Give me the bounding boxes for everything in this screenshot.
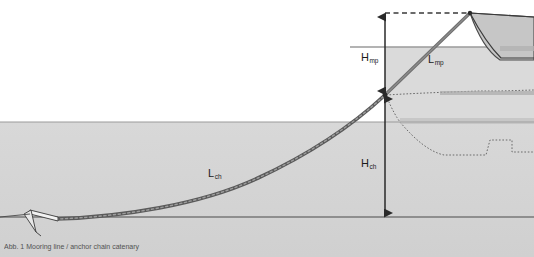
diagram-canvas [0,0,534,257]
label-l-mp-base: L [428,53,434,65]
mooring-catenary-diagram: Hmp Lmp Hch Lch Abb. 1 Mooring line / an… [0,0,534,257]
chain-pendant-connection-node [383,93,388,98]
vessel-waterline-stripe [500,46,534,51]
label-h-mp-base: H [361,51,369,63]
label-l-ch-base: L [208,167,214,179]
label-h-ch-base: H [361,157,369,169]
label-l-mp-sub: mp [435,59,444,66]
label-l-ch-sub: ch [215,173,222,180]
water-region [0,122,534,257]
ghost-deck-stripe [440,91,534,95]
ghost-waterline-stripe [400,118,534,124]
label-l-mp: Lmp [428,53,443,65]
label-h-mp-sub: mp [369,57,378,64]
label-h-mp: Hmp [361,51,378,63]
label-h-ch: Hch [361,157,376,169]
figure-caption: Abb. 1 Mooring line / anchor chain caten… [4,243,139,250]
label-l-ch: Lch [208,167,221,179]
fairlead-node [468,11,472,15]
label-h-ch-sub: ch [369,163,376,170]
